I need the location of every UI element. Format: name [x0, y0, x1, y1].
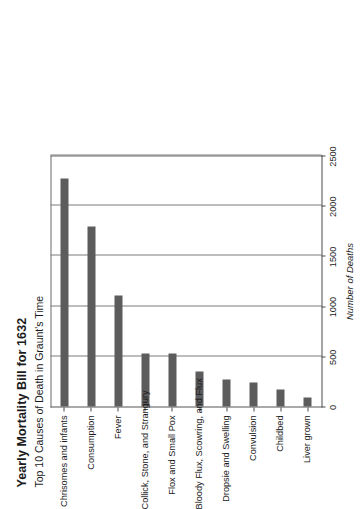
- bar: [276, 389, 284, 406]
- value-tick: [321, 255, 325, 256]
- bar: [60, 178, 68, 406]
- category-label: Flox and Small Pox: [166, 415, 176, 509]
- bar: [87, 226, 95, 406]
- category-label: Fever: [112, 415, 122, 509]
- value-tick: [321, 205, 325, 206]
- category-label: Childbed: [274, 415, 284, 509]
- gridline-2500: [50, 154, 321, 155]
- category-label: Convulsion: [247, 415, 257, 509]
- value-tick-label: 1000: [327, 296, 337, 316]
- bar-fill: [222, 379, 230, 406]
- rotated-page-wrapper: Yearly Mortality Bill for 1632 Top 10 Ca…: [0, 0, 360, 509]
- value-tick: [321, 155, 325, 156]
- category-tick: [253, 407, 254, 411]
- bar-fill: [87, 226, 95, 406]
- value-tick: [321, 356, 325, 357]
- plot-area: [50, 155, 321, 407]
- category-tick: [90, 407, 91, 411]
- bar-fill: [249, 382, 257, 406]
- bar: [249, 382, 257, 406]
- bar-fill: [60, 178, 68, 406]
- chart-subtitle: Top 10 Causes of Death in Graunt's Time: [31, 67, 45, 487]
- category-tick: [117, 407, 118, 411]
- bar: [114, 295, 122, 406]
- value-tick-label: 2000: [327, 196, 337, 216]
- value-tick-label: 0: [327, 404, 337, 409]
- category-label: Dropsie and Swelling: [220, 415, 230, 509]
- page-title: Yearly Mortality Bill for 1632: [14, 67, 29, 487]
- bar-fill: [303, 397, 311, 406]
- chart-figure: Yearly Mortality Bill for 1632 Top 10 Ca…: [0, 0, 360, 509]
- category-label: Bloody Flux, Scowring, and Flux: [193, 415, 203, 509]
- category-label: Consumption: [85, 415, 95, 509]
- category-tick: [63, 407, 64, 411]
- bar-fill: [114, 295, 122, 406]
- bar: [303, 397, 311, 406]
- category-label: Chrisomes and infants: [58, 415, 68, 509]
- value-tick-label: 500: [327, 349, 337, 364]
- category-label: Collick, Stone, and Strangury: [139, 415, 149, 509]
- category-axis-line: [321, 155, 322, 407]
- value-tick-label: 2500: [327, 146, 337, 166]
- category-tick: [280, 407, 281, 411]
- category-tick: [171, 407, 172, 411]
- category-label: Liver grown: [301, 415, 311, 509]
- bar: [168, 353, 176, 406]
- category-tick: [307, 407, 308, 411]
- bar-fill: [168, 353, 176, 406]
- category-tick: [226, 407, 227, 411]
- bar: [222, 379, 230, 406]
- bar-fill: [276, 389, 284, 406]
- gridline-2000: [50, 204, 321, 205]
- value-tick: [321, 406, 325, 407]
- value-tick-label: 1500: [327, 246, 337, 266]
- value-axis-title: Number of Deaths: [343, 155, 354, 407]
- value-tick: [321, 306, 325, 307]
- title-block: Yearly Mortality Bill for 1632 Top 10 Ca…: [14, 67, 45, 487]
